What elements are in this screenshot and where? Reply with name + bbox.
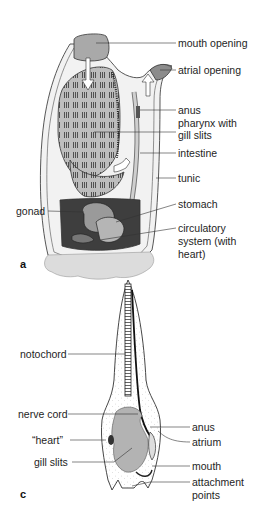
larva-heart	[108, 435, 114, 445]
label-anus-c: anus	[192, 421, 215, 433]
label-heart: “heart”	[32, 434, 63, 446]
label-pharynx-1: pharynx with	[178, 117, 237, 129]
label-gill-slits: gill slits	[34, 456, 68, 468]
mouth-opening-siphon	[74, 34, 109, 61]
panel-label-a: a	[20, 258, 26, 270]
panel-label-c: c	[20, 488, 26, 500]
label-intestine: intestine	[178, 147, 217, 159]
label-tunic: tunic	[178, 172, 200, 184]
label-anus-a: anus	[178, 104, 201, 116]
label-nerve-cord: nerve cord	[18, 408, 68, 420]
base-fringe	[45, 252, 154, 279]
label-attachment-1: attachment	[192, 476, 244, 488]
label-gonad: gonad	[16, 205, 45, 217]
label-mouth-opening: mouth opening	[178, 37, 247, 49]
label-circulatory-2: system (with	[178, 235, 236, 247]
label-mouth: mouth	[192, 460, 221, 472]
label-notochord: notochord	[20, 348, 67, 360]
tunicate-illustration	[0, 0, 264, 507]
label-stomach: stomach	[178, 198, 218, 210]
label-pharynx-2: gill slits	[178, 129, 212, 141]
label-atrium: atrium	[192, 436, 221, 448]
notochord	[125, 284, 131, 396]
label-atrial-opening: atrial opening	[178, 64, 241, 76]
anus-marker	[136, 106, 140, 118]
label-circulatory-3: heart)	[178, 248, 205, 260]
label-attachment-2: points	[192, 489, 220, 501]
label-circulatory-1: circulatory	[178, 222, 226, 234]
